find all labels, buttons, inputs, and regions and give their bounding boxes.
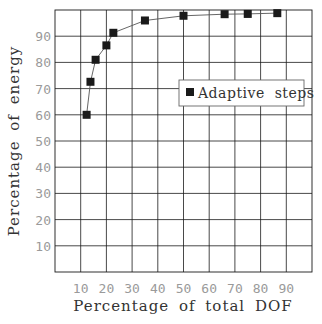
data-point-marker [83, 111, 91, 119]
data-point-marker [92, 56, 100, 64]
x-tick-label: 40 [150, 281, 166, 296]
x-tick-label: 70 [227, 281, 243, 296]
y-tick-label: 30 [35, 186, 51, 201]
y-tick-label: 40 [35, 160, 51, 175]
x-tick-label: 90 [278, 281, 294, 296]
y-tick-label: 50 [35, 134, 51, 149]
y-tick-label: 70 [35, 82, 51, 97]
y-tick-label: 60 [35, 108, 51, 123]
x-tick-label: 80 [253, 281, 269, 296]
data-point-marker [109, 29, 117, 37]
y-tick-label: 80 [35, 55, 51, 70]
data-point-marker [244, 10, 252, 18]
chart: 102030405060708090 102030405060708090 Ad… [0, 0, 322, 324]
x-axis-title: Percentage of total DOF [73, 297, 292, 315]
y-tick-labels: 102030405060708090 [35, 29, 51, 254]
y-tick-label: 20 [35, 213, 51, 228]
data-point-marker [221, 10, 229, 18]
x-tick-label: 60 [201, 281, 217, 296]
legend-label: Adaptive steps [197, 85, 314, 101]
data-point-marker [180, 12, 188, 20]
x-tick-label: 20 [99, 281, 115, 296]
x-tick-labels: 102030405060708090 [73, 281, 294, 296]
data-point-marker [273, 9, 281, 17]
legend: Adaptive steps [179, 80, 314, 106]
data-point-marker [141, 16, 149, 24]
x-tick-label: 10 [73, 281, 89, 296]
x-tick-label: 50 [176, 281, 192, 296]
legend-marker-square-icon [186, 88, 194, 96]
y-tick-label: 90 [35, 29, 51, 44]
y-tick-label: 10 [35, 239, 51, 254]
data-point-marker [86, 78, 94, 86]
data-point-marker [102, 41, 110, 49]
grid [55, 10, 312, 272]
y-axis-title: Percentage of energy [5, 46, 23, 237]
x-tick-label: 30 [124, 281, 140, 296]
